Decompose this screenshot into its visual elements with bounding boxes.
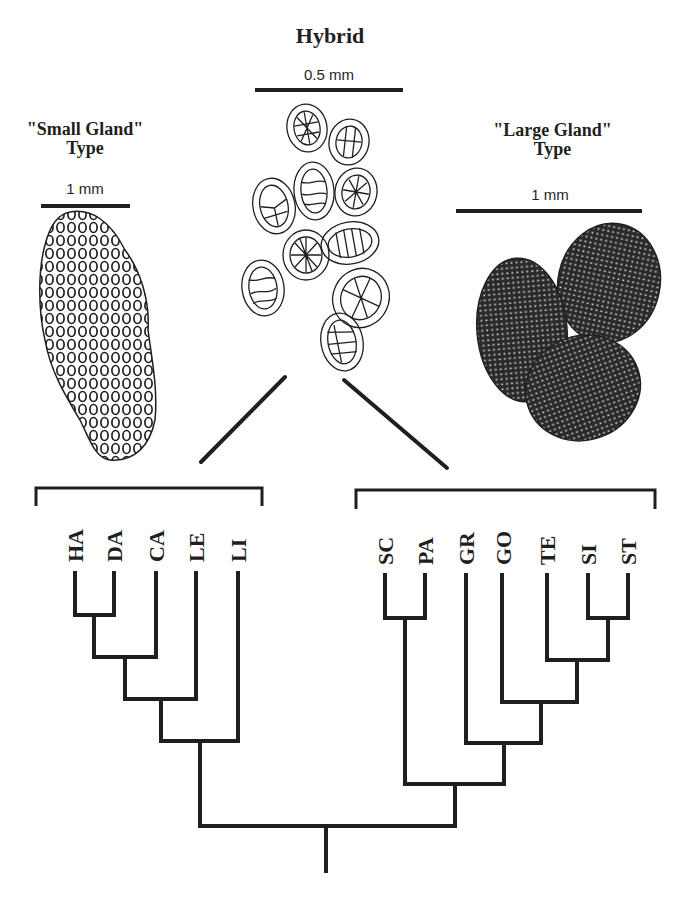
branch-HADACALE-LI <box>161 573 238 741</box>
taxon-label-HA: HA <box>63 529 88 562</box>
taxon-label-SI: SI <box>576 544 601 565</box>
figure-canvas: HA DA CA LE LI SC PA GR GO TE SI ST <box>0 0 691 899</box>
taxon-label-CA: CA <box>144 530 169 562</box>
left-clade-bracket <box>36 488 262 506</box>
left-connector <box>201 377 285 462</box>
taxon-label-SC: SC <box>373 537 398 565</box>
large-gland-illustration <box>471 214 671 457</box>
branch-SCPA-GRclade <box>405 618 504 784</box>
branch-HA-DA <box>75 573 114 615</box>
hybrid-cell <box>292 160 337 221</box>
branch-HADACA-LE <box>125 573 196 699</box>
taxon-label-LE: LE <box>184 533 209 562</box>
hybrid-cell <box>238 257 287 318</box>
taxon-label-GR: GR <box>454 531 479 565</box>
clade-brackets <box>36 488 655 509</box>
connector-lines <box>201 377 447 468</box>
hybrid-cell <box>248 174 301 238</box>
cladogram-tree <box>75 573 628 871</box>
right-connector <box>344 380 447 468</box>
taxon-label-TE: TE <box>535 536 560 565</box>
hybrid-cell <box>283 101 331 155</box>
taxon-label-ST: ST <box>616 538 641 565</box>
right-clade-bracket <box>356 490 655 509</box>
hybrid-cell <box>318 217 382 268</box>
hybrid-cell <box>283 230 329 280</box>
small-gland-illustration <box>40 211 156 460</box>
hybrid-cell <box>331 165 381 220</box>
taxon-labels: HA DA CA LE LI SC PA GR GO TE SI ST <box>63 529 641 565</box>
branch-GO-TESIST <box>502 575 577 702</box>
taxon-label-PA: PA <box>413 537 438 565</box>
branch-SI-ST <box>588 575 628 618</box>
taxon-label-DA: DA <box>102 530 127 562</box>
hybrid-gland-illustration <box>238 101 399 374</box>
branch-SC-PA <box>385 575 425 618</box>
taxon-label-GO: GO <box>491 531 516 565</box>
taxon-label-LI: LI <box>226 539 251 562</box>
hybrid-cell <box>325 116 372 168</box>
